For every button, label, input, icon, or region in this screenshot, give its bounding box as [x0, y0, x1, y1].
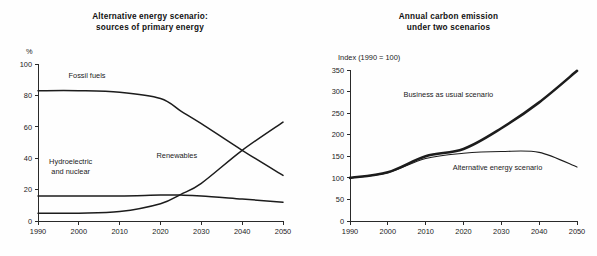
- x-axis-tick-label: 2030: [493, 227, 509, 236]
- y-axis-tick-label: 50: [336, 195, 344, 204]
- x-axis-tick-label: 2030: [193, 227, 209, 236]
- x-axis-tick-label: 2000: [380, 227, 396, 236]
- x-axis-tick-label: 2010: [111, 227, 127, 236]
- chart-panel-alternative-energy-sources: Alternative energy scenario: sources of …: [0, 0, 300, 256]
- series-label-1: Alternative energy scenario: [453, 163, 543, 172]
- chart-svg-left: %020406080100199020002010202020302040205…: [0, 0, 300, 256]
- x-axis-tick-label: 2040: [531, 227, 547, 236]
- series-label-1-line2: and nuclear: [51, 167, 90, 176]
- x-axis-tick-label: 2020: [152, 227, 168, 236]
- y-axis-tick-label: 100: [20, 60, 32, 69]
- y-axis-tick-label: 350: [332, 66, 344, 75]
- y-axis-tick-label: 80: [24, 91, 32, 100]
- x-axis-tick-label: 2010: [417, 227, 433, 236]
- series-label-1-line1: Hydroelectric: [49, 157, 92, 166]
- chart-panel-annual-carbon-emission: Annual carbon emission under two scenari…: [300, 0, 597, 256]
- figure-canvas: Alternative energy scenario: sources of …: [0, 0, 597, 256]
- y-axis-tick-label: 60: [24, 123, 32, 132]
- y-axis-tick-label: 20: [24, 185, 32, 194]
- x-axis-tick-label: 2000: [71, 227, 87, 236]
- x-axis-tick-label: 2040: [234, 227, 250, 236]
- series-line-1: [38, 195, 283, 202]
- y-axis-caption: %: [26, 47, 33, 56]
- x-axis-tick-label: 1990: [342, 227, 358, 236]
- series-label-0: Fossil fuels: [69, 71, 106, 80]
- x-axis-tick-label: 2020: [455, 227, 471, 236]
- x-axis-tick-label: 2050: [275, 227, 291, 236]
- y-axis-tick-label: 200: [332, 130, 344, 139]
- y-axis-tick-label: 0: [28, 217, 32, 226]
- y-axis-tick-label: 0: [340, 217, 344, 226]
- y-axis-tick-label: 100: [332, 174, 344, 183]
- x-axis-tick-label: 2050: [569, 227, 585, 236]
- y-axis-tick-label: 300: [332, 87, 344, 96]
- x-axis-tick-label: 1990: [30, 227, 46, 236]
- y-axis-caption: Index (1990 = 100): [338, 53, 400, 62]
- y-axis-tick-label: 40: [24, 154, 32, 163]
- series-label-2: Renewables: [156, 151, 197, 160]
- y-axis-tick-label: 150: [332, 152, 344, 161]
- chart-svg-right: Index (1990 = 100)0501001502002503003501…: [300, 0, 597, 256]
- y-axis-tick-label: 250: [332, 109, 344, 118]
- series-label-0: Business as usual scenario: [404, 90, 494, 99]
